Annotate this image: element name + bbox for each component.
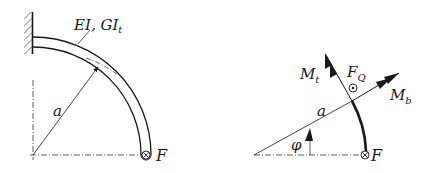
- beam-segment: [352, 101, 366, 151]
- fixed-wall-support: [24, 12, 33, 54]
- into-page-cross-icon: [361, 151, 369, 159]
- angle-label: φ: [291, 136, 302, 154]
- left-figure: EI, GIt a F: [24, 12, 168, 165]
- radius-line: [254, 101, 352, 155]
- torsion-moment-label: Mt: [299, 65, 320, 85]
- angle-arrow: [305, 128, 313, 155]
- radius-arrow: [33, 67, 98, 155]
- radius-label: a: [317, 102, 326, 120]
- curved-beam: [33, 37, 151, 160]
- radius-label: a: [53, 102, 62, 120]
- diagram-canvas: EI, GIt a F: [0, 0, 440, 173]
- stiffness-label: EI, GIt: [73, 16, 123, 35]
- right-figure: Mt FQ Mb a φ F: [254, 53, 412, 165]
- bending-moment-label: Mb: [389, 86, 412, 106]
- force-label: F: [155, 146, 168, 165]
- out-of-page-dot-icon: [349, 84, 357, 92]
- force-label: F: [370, 146, 383, 165]
- into-page-cross-icon: [142, 151, 150, 159]
- shear-force-label: FQ: [346, 63, 366, 83]
